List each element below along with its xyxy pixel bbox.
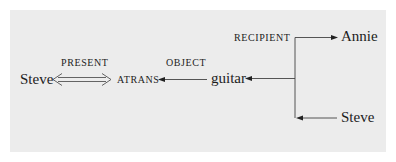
tense-label: PRESENT bbox=[61, 58, 109, 68]
recipient-arrow-icon bbox=[245, 76, 295, 81]
object-label: guitar bbox=[211, 71, 246, 86]
actor-label: Steve bbox=[20, 72, 53, 87]
object-relation-label: OBJECT bbox=[166, 58, 206, 68]
to-arrow-icon bbox=[295, 35, 338, 40]
recipient-from-label: Steve bbox=[341, 110, 374, 125]
primitive-label: ATRANS bbox=[117, 75, 160, 85]
diagram-connectors bbox=[0, 0, 396, 162]
recipient-relation-label: RECIPIENT bbox=[234, 33, 291, 43]
object-arrow-icon bbox=[158, 77, 207, 82]
from-arrow-icon bbox=[296, 116, 337, 121]
double-arrow-icon bbox=[53, 74, 111, 86]
recipient-to-label: Annie bbox=[341, 29, 378, 44]
